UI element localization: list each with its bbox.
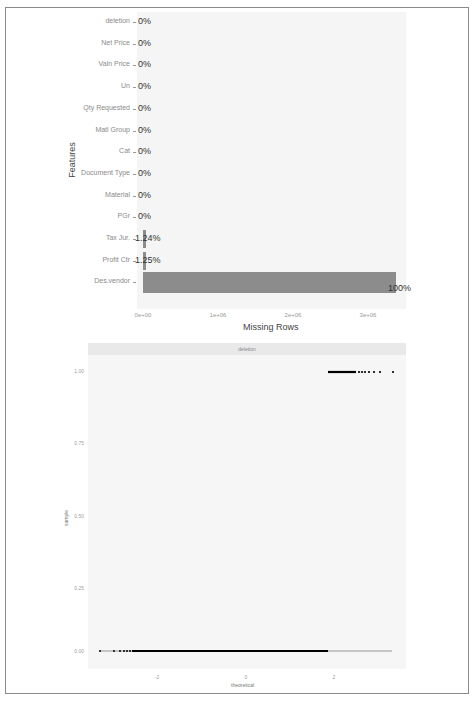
qq-y-tick: 0.75 (44, 440, 84, 446)
bar-chart-x-tick: 1e+06 (210, 312, 227, 318)
qq-plot-points (88, 355, 406, 669)
qq-y-tick: 0.00 (44, 648, 84, 654)
bar-chart-y-tick-label: Matl Group (40, 126, 130, 133)
bar-value-label: 0% (138, 211, 151, 221)
bar-value-label: 0% (138, 16, 151, 26)
tick-mark (133, 44, 136, 45)
bar-value-label: 0% (138, 38, 151, 48)
bar-chart-y-tick-label: deletion (40, 17, 130, 24)
bar-chart-y-tick-label: Document Type (40, 169, 130, 176)
bar-chart-x-axis-title: Missing Rows (243, 322, 299, 332)
bar-chart-y-tick-label: Cat (40, 147, 130, 154)
bar-chart-y-tick-label: Tax Jur. (40, 234, 130, 241)
bar-value-label: 0% (138, 190, 151, 200)
tick-mark (133, 282, 136, 283)
facet-strip-label: deletion (88, 343, 406, 355)
qq-plot-panel (88, 355, 406, 669)
qq-y-tick: 1.00 (44, 368, 84, 374)
qq-x-tick: 2 (333, 674, 336, 680)
qq-x-tick: 0 (245, 674, 248, 680)
tick-mark (133, 152, 136, 153)
bar-chart-x-tick: 2e+06 (285, 312, 302, 318)
bar-chart-x-tick: 0e+00 (135, 312, 152, 318)
bar-value-label: 100% (388, 283, 411, 293)
qq-x-tick: -2 (155, 674, 159, 680)
bar-value-label: 0% (138, 59, 151, 69)
bar-chart-y-tick-label: Des.vendor (40, 277, 130, 284)
bar-chart-y-tick-label: Net Price (40, 39, 130, 46)
bar-chart-x-tick: 3e+06 (360, 312, 377, 318)
bar-chart-panel (137, 12, 406, 309)
tick-mark (133, 131, 136, 132)
bar (143, 272, 396, 293)
bar-value-label: 0% (138, 146, 151, 156)
bar-chart-y-tick-label: Valn Price (40, 60, 130, 67)
tick-mark (133, 87, 136, 88)
tick-mark (133, 22, 136, 23)
qq-x-axis-title: theoretical (231, 682, 254, 688)
qq-y-axis-title: sample (63, 510, 69, 526)
tick-mark (133, 174, 136, 175)
tick-mark (133, 196, 136, 197)
bar-value-label: 0% (138, 81, 151, 91)
tick-mark (133, 109, 136, 110)
bar-chart-y-tick-label: PGr (40, 212, 130, 219)
tick-mark (133, 217, 136, 218)
bar-value-label: 1.24% (135, 233, 161, 243)
tick-mark (133, 65, 136, 66)
bar-chart-y-tick-label: Un (40, 82, 130, 89)
bar-chart-y-tick-label: Material (40, 191, 130, 198)
bar-value-label: 1.25% (135, 255, 161, 265)
bar-value-label: 0% (138, 168, 151, 178)
bar-chart-y-tick-label: Qty Requested (40, 104, 130, 111)
bar-chart-y-tick-label: Profit Ctr (40, 256, 130, 263)
bar-value-label: 0% (138, 125, 151, 135)
bar-value-label: 0% (138, 103, 151, 113)
qq-y-tick: 0.25 (44, 585, 84, 591)
